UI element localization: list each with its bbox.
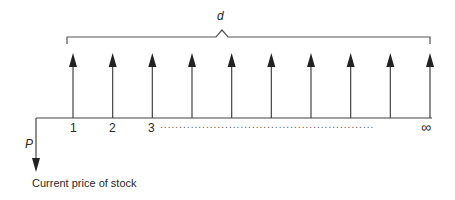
continuation-dots: ........................................… bbox=[160, 119, 374, 130]
dividend-bracket bbox=[67, 30, 430, 44]
current-price-caption: Current price of stock bbox=[32, 177, 137, 189]
dividend-arrow-head-icon bbox=[426, 53, 434, 67]
bracket-label-d: d bbox=[217, 9, 224, 23]
dividend-arrow-head-icon bbox=[69, 53, 77, 67]
dividend-arrow-head-icon bbox=[148, 53, 156, 67]
price-label-p: P bbox=[25, 137, 33, 151]
infinity-label: ∞ bbox=[421, 119, 431, 135]
dividend-arrow-head-icon bbox=[386, 53, 394, 67]
dividend-arrow-head-icon bbox=[228, 53, 236, 67]
dividend-arrow-head-icon bbox=[267, 53, 275, 67]
dividend-arrow-head-icon bbox=[347, 53, 355, 67]
period-label-2: 2 bbox=[109, 121, 116, 135]
dividend-arrow-head-icon bbox=[188, 53, 196, 67]
price-arrow-head-icon bbox=[32, 158, 40, 172]
cash-flow-diagram bbox=[0, 0, 455, 200]
dividend-arrow-head-icon bbox=[307, 53, 315, 67]
period-label-1: 1 bbox=[70, 121, 77, 135]
dividend-arrows bbox=[69, 53, 434, 118]
period-label-3: 3 bbox=[148, 121, 155, 135]
dividend-arrow-head-icon bbox=[109, 53, 117, 67]
